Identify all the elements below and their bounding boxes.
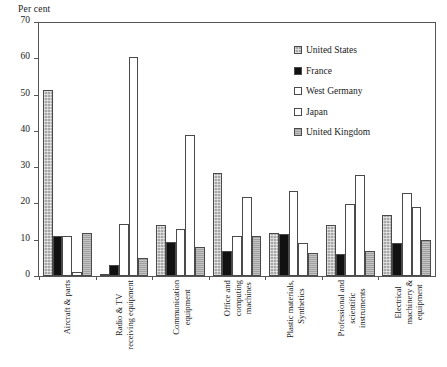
x-axis-label: Plastic materials,Synthetics xyxy=(284,280,305,338)
y-axis-tick-mark xyxy=(34,240,38,241)
x-axis-label-line: equipment xyxy=(181,280,192,335)
y-axis-tick: 10 xyxy=(4,240,38,241)
y-axis-tick-label: 30 xyxy=(21,160,31,170)
y-axis-tick-mark xyxy=(34,22,38,23)
bar xyxy=(195,247,205,276)
bar-group xyxy=(39,23,96,276)
bar xyxy=(279,234,289,276)
y-axis-tick-mark xyxy=(34,95,38,96)
bar-group xyxy=(209,23,266,276)
y-axis-tick-label: 0 xyxy=(25,269,30,279)
y-axis-tick: 40 xyxy=(4,131,38,132)
bar xyxy=(156,225,166,276)
y-axis-tick-mark xyxy=(34,167,38,168)
legend-label: West Germany xyxy=(306,86,362,96)
bar xyxy=(382,215,392,276)
x-axis-label-cell: Office andcomputingmachines xyxy=(210,280,267,366)
x-axis-label-line: equipment xyxy=(414,280,425,325)
bar xyxy=(402,193,412,276)
y-axis-tick-mark xyxy=(34,58,38,59)
bar xyxy=(242,197,252,277)
bar xyxy=(365,251,375,276)
x-axis-label-line: machinery & xyxy=(403,280,414,325)
x-axis-label-cell: Professional andscientificinstruments xyxy=(323,280,380,366)
plot-area: 010203040506070 xyxy=(38,22,436,277)
bar-groups xyxy=(39,23,435,276)
x-axis-label-cell: Radio & TVreceiving equipment xyxy=(96,280,153,366)
bar xyxy=(232,236,242,276)
bar xyxy=(222,251,232,276)
x-axis-label-line: Communication xyxy=(171,280,182,335)
bar xyxy=(252,236,262,276)
bar-group-bars xyxy=(100,23,149,276)
bar xyxy=(62,236,72,276)
x-axis-line xyxy=(38,276,435,277)
y-axis-tick: 30 xyxy=(4,167,38,168)
bar xyxy=(412,207,422,276)
bar-group-bars xyxy=(382,23,431,276)
y-axis-tick: 20 xyxy=(4,203,38,204)
legend-swatch xyxy=(294,108,302,116)
x-axis-label: Professional andscientificinstruments xyxy=(336,280,368,336)
y-axis-caption: Per cent xyxy=(18,4,50,14)
bar xyxy=(43,90,53,276)
x-axis-label-line: Synthetics xyxy=(295,280,306,338)
y-axis-tick-label: 10 xyxy=(21,233,31,243)
legend-label: France xyxy=(306,66,332,76)
bar xyxy=(289,191,299,276)
y-axis-tick: 60 xyxy=(4,58,38,59)
bar xyxy=(392,243,402,276)
x-axis-label-line: machines xyxy=(243,280,254,316)
legend-swatch xyxy=(294,46,302,54)
legend-swatch xyxy=(294,87,302,95)
x-axis-label-line: scientific xyxy=(346,280,357,336)
x-axis-label: Aircraft & parts xyxy=(62,280,73,334)
plot-inner: 010203040506070 xyxy=(38,23,435,277)
bar-group-bars xyxy=(213,23,262,276)
legend-item: West Germany xyxy=(294,86,370,96)
y-axis-tick-mark xyxy=(34,276,38,277)
y-axis-tick-mark xyxy=(34,131,38,132)
bar xyxy=(213,173,223,276)
legend-item: United Kingdom xyxy=(294,127,370,137)
bar xyxy=(82,233,92,276)
x-axis-label: Electricalmachinery &equipment xyxy=(393,280,425,325)
bar xyxy=(345,204,355,276)
x-axis-label-line: Professional and xyxy=(336,280,347,336)
x-axis-label-line: receiving equipment xyxy=(124,280,135,350)
x-axis-label-line: Aircraft & parts xyxy=(62,280,73,334)
y-axis-tick-label: 40 xyxy=(21,124,31,134)
bar xyxy=(298,243,308,276)
x-axis-label-line: Office and xyxy=(222,280,233,316)
bar xyxy=(308,253,318,276)
legend-swatch xyxy=(294,128,302,136)
bar xyxy=(109,265,119,276)
chart-legend: United StatesFranceWest GermanyJapanUnit… xyxy=(294,45,370,137)
legend-label: United Kingdom xyxy=(306,127,370,137)
bar xyxy=(176,229,186,276)
x-axis-label-cell: Aircraft & parts xyxy=(39,280,96,366)
bar xyxy=(421,240,431,276)
bar xyxy=(336,254,346,276)
x-axis-label-line: Radio & TV xyxy=(114,280,125,350)
y-axis-tick-label: 70 xyxy=(21,15,31,25)
y-axis-tick: 70 xyxy=(4,22,38,23)
bar-group-bars xyxy=(43,23,92,276)
bar xyxy=(138,258,148,276)
x-axis-label: Communicationequipment xyxy=(171,280,192,335)
bar xyxy=(269,233,279,276)
bar-group xyxy=(378,23,435,276)
bar xyxy=(129,57,139,276)
legend-item: France xyxy=(294,66,370,76)
bar xyxy=(100,274,110,276)
x-axis-label-line: Plastic materials, xyxy=(284,280,295,338)
legend-swatch xyxy=(294,67,302,75)
legend-item: Japan xyxy=(294,107,370,117)
legend-item: United States xyxy=(294,45,370,55)
bar xyxy=(166,242,176,276)
bar xyxy=(72,272,82,276)
bar xyxy=(355,175,365,276)
x-axis-label-cell: Communicationequipment xyxy=(153,280,210,366)
bar xyxy=(119,224,129,276)
x-axis-label-line: Electrical xyxy=(393,280,404,325)
